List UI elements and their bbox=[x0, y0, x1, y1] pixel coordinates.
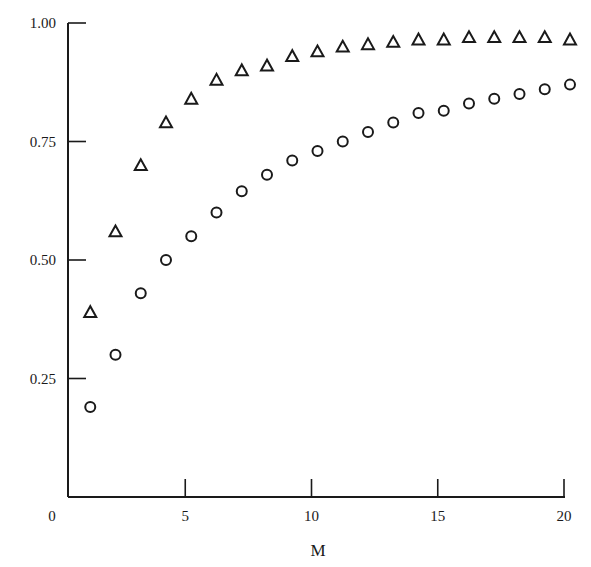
y-tick-label: 0.50 bbox=[30, 252, 56, 268]
y-tick-label: 0.25 bbox=[30, 371, 56, 387]
triangle-marker bbox=[539, 31, 551, 42]
circle-marker bbox=[439, 106, 449, 116]
data-series bbox=[84, 31, 576, 412]
circle-marker bbox=[85, 402, 95, 412]
x-tick-label: 20 bbox=[557, 508, 572, 524]
circle-marker bbox=[540, 84, 550, 94]
triangle-marker bbox=[110, 226, 122, 237]
scatter-chart: 0.250.500.751.0005101520M bbox=[0, 0, 591, 567]
triangle-marker bbox=[236, 64, 248, 75]
circle-marker bbox=[186, 231, 196, 241]
triangle-marker bbox=[261, 60, 273, 71]
circle-marker bbox=[464, 99, 474, 109]
triangle-marker bbox=[488, 31, 500, 42]
circle-marker bbox=[363, 127, 373, 137]
triangle-marker bbox=[312, 45, 324, 56]
triangle-marker bbox=[84, 306, 96, 317]
triangle-marker bbox=[135, 159, 147, 170]
circle-marker bbox=[136, 288, 146, 298]
y-tick-label: 0.75 bbox=[30, 134, 56, 150]
circle-marker bbox=[262, 170, 272, 180]
y-tick-label: 1.00 bbox=[30, 15, 56, 31]
circle-marker bbox=[338, 137, 348, 147]
triangle-marker bbox=[160, 117, 172, 128]
circle-marker bbox=[237, 186, 247, 196]
triangle-marker bbox=[463, 31, 475, 42]
circle-marker bbox=[565, 80, 575, 90]
x-tick-label: 5 bbox=[182, 508, 190, 524]
circle-marker bbox=[489, 94, 499, 104]
triangle-marker bbox=[387, 36, 399, 47]
circle-marker bbox=[414, 108, 424, 118]
circle-marker bbox=[111, 350, 121, 360]
triangle-marker bbox=[211, 74, 223, 85]
triangle-marker bbox=[564, 34, 576, 45]
x-tick-label: 0 bbox=[48, 508, 56, 524]
x-axis-label: M bbox=[310, 541, 325, 560]
triangle-marker bbox=[337, 41, 349, 52]
circle-marker bbox=[388, 118, 398, 128]
circle-marker bbox=[161, 255, 171, 265]
triangle-marker bbox=[286, 50, 298, 61]
triangle-marker bbox=[514, 31, 526, 42]
circle-marker bbox=[515, 89, 525, 99]
circle-marker bbox=[313, 146, 323, 156]
x-tick-label: 15 bbox=[430, 508, 445, 524]
x-tick-label: 10 bbox=[304, 508, 319, 524]
triangle-marker bbox=[438, 34, 450, 45]
triangle-marker bbox=[413, 34, 425, 45]
circle-marker bbox=[212, 208, 222, 218]
triangle-marker bbox=[362, 38, 374, 49]
circle-marker bbox=[287, 155, 297, 165]
triangle-marker bbox=[185, 93, 197, 104]
